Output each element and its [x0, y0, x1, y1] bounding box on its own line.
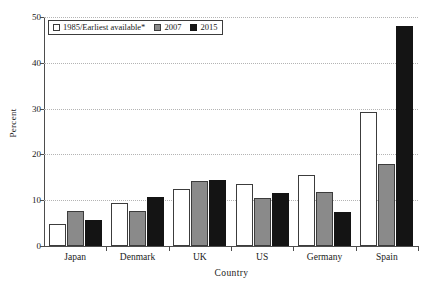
x-tick-mark-3	[293, 246, 294, 251]
y-axis-title-text: Percent	[8, 108, 18, 137]
legend-label-series-2: 2015	[200, 23, 217, 32]
bar-japan-series-2[interactable]	[85, 220, 102, 246]
bars-spain	[356, 17, 418, 246]
x-tick-label-denmark: Denmark	[106, 252, 168, 262]
bar-group-denmark	[106, 17, 168, 246]
legend-item-1[interactable]: 2007	[154, 23, 181, 32]
chart-legend: 1985/Earliest available* 2007 2015	[48, 20, 223, 35]
bar-denmark-series-0[interactable]	[111, 203, 128, 247]
bars-denmark	[106, 17, 168, 246]
x-tick-label-us: US	[231, 252, 293, 262]
bar-group-japan	[44, 17, 106, 246]
legend-item-0[interactable]: 1985/Earliest available*	[53, 23, 145, 32]
bar-japan-series-1[interactable]	[67, 211, 84, 246]
bars-us	[231, 17, 293, 246]
bar-denmark-series-2[interactable]	[147, 197, 164, 246]
x-axis-title-text: Country	[215, 268, 249, 278]
x-tick-mark-1	[169, 246, 170, 251]
legend-item-2[interactable]: 2015	[190, 23, 217, 32]
bar-spain-series-2[interactable]	[396, 26, 413, 246]
x-tick-label-spain: Spain	[356, 252, 418, 262]
legend-label-series-0: 1985/Earliest available*	[63, 23, 145, 32]
bars-germany	[293, 17, 355, 246]
y-tick-mark-0	[40, 246, 44, 247]
plot-area: 01020304050	[44, 17, 418, 246]
bar-uk-series-1[interactable]	[191, 181, 208, 246]
bar-denmark-series-1[interactable]	[129, 211, 146, 246]
bars-uk	[169, 17, 231, 246]
x-tick-label-japan: Japan	[44, 252, 106, 262]
legend-swatch-series-2	[190, 24, 197, 31]
x-tick-mark-4	[356, 246, 357, 251]
bar-spain-series-0[interactable]	[360, 112, 377, 246]
bar-group-uk	[169, 17, 231, 246]
x-tick-label-uk: UK	[169, 252, 231, 262]
legend-swatch-series-1	[154, 24, 161, 31]
bar-spain-series-1[interactable]	[378, 164, 395, 246]
x-tick-mark-0	[106, 246, 107, 251]
legend-swatch-series-0	[53, 24, 60, 31]
legend-label-series-1: 2007	[164, 23, 181, 32]
bar-us-series-2[interactable]	[272, 193, 289, 246]
bar-us-series-0[interactable]	[236, 184, 253, 246]
bar-group-spain	[356, 17, 418, 246]
x-axis-title: Country	[44, 268, 419, 278]
bar-uk-series-0[interactable]	[173, 189, 190, 246]
bar-japan-series-0[interactable]	[49, 224, 66, 246]
bar-germany-series-0[interactable]	[298, 175, 315, 246]
x-tick-mark-5	[418, 246, 419, 251]
bar-uk-series-2[interactable]	[209, 180, 226, 246]
bar-chart-figure: Percent 01020304050 JapanDenmarkUKUSGerm…	[0, 0, 428, 296]
bar-group-us	[231, 17, 293, 246]
bar-germany-series-1[interactable]	[316, 192, 333, 247]
bar-germany-series-2[interactable]	[334, 212, 351, 246]
bars-japan	[44, 17, 106, 246]
x-tick-label-germany: Germany	[293, 252, 355, 262]
bar-group-germany	[293, 17, 355, 246]
y-axis-title: Percent	[4, 0, 22, 246]
x-tick-mark-2	[231, 246, 232, 251]
bar-us-series-1[interactable]	[254, 198, 271, 246]
